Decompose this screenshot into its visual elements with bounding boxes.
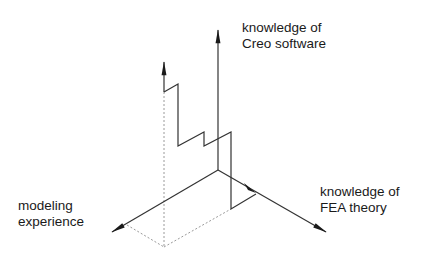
- learning-path-zigzag: [164, 84, 256, 209]
- axis-label-fea-theory: knowledge of FEA theory: [320, 184, 400, 216]
- axis-label-modeling-experience: modeling experience: [18, 198, 84, 230]
- axis-modeling: [112, 170, 218, 232]
- axis-label-modeling-line1: modeling: [18, 198, 84, 214]
- axis-label-creo-line1: knowledge of: [242, 20, 326, 36]
- projection-lines: [127, 92, 231, 247]
- fea-axis-mid-arrowhead: [244, 183, 256, 193]
- axis-label-creo-software: knowledge of Creo software: [242, 20, 326, 52]
- axis-label-creo-line2: Creo software: [242, 36, 326, 52]
- dashed-fea-projection: [164, 209, 231, 247]
- axis-label-fea-line1: knowledge of: [320, 184, 400, 200]
- axis-label-modeling-line2: experience: [18, 214, 84, 230]
- axes: [112, 30, 326, 232]
- dashed-modeling-projection: [127, 225, 164, 247]
- axis-fea: [218, 170, 326, 232]
- axis-label-fea-line2: FEA theory: [320, 200, 400, 216]
- learning-path: [164, 62, 256, 209]
